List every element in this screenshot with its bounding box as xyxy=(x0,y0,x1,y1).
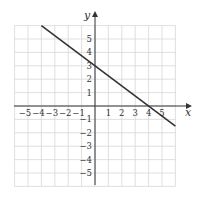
y-tick-label: 2 xyxy=(87,74,92,84)
x-tick-label: 1 xyxy=(106,108,111,118)
x-tick-label: −3 xyxy=(46,108,59,118)
coordinate-plane: −5−4−3−2−11234554321−1−2−3−4−5 x y xyxy=(0,0,199,204)
y-tick-label: −5 xyxy=(79,168,92,178)
x-axis-label: x xyxy=(185,106,192,119)
x-tick-label: 2 xyxy=(119,108,124,118)
y-axis-label: y xyxy=(83,9,91,22)
x-tick-label: −5 xyxy=(19,108,32,118)
y-axis-arrow-icon xyxy=(92,11,98,17)
x-tick-label: 4 xyxy=(146,108,151,118)
x-tick-label: −4 xyxy=(32,108,45,118)
y-tick-label: −2 xyxy=(79,128,92,138)
y-tick-label: −4 xyxy=(79,155,92,165)
x-tick-label: −2 xyxy=(59,108,72,118)
y-tick-label: −1 xyxy=(79,114,92,124)
y-tick-label: −3 xyxy=(79,141,92,151)
y-tick-label: 5 xyxy=(87,34,92,44)
x-tick-label: 3 xyxy=(132,108,137,118)
y-tick-label: 4 xyxy=(87,47,92,57)
axes xyxy=(14,11,192,185)
y-tick-label: 1 xyxy=(87,88,92,98)
